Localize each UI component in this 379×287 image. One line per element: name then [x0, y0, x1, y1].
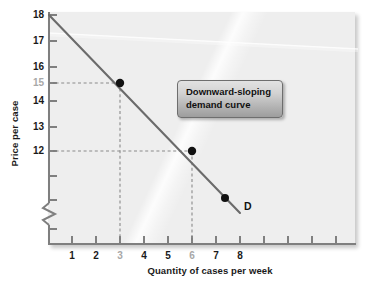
- x-tick-label-8: 8: [232, 251, 248, 261]
- demand-curve-callout: Downward-sloping demand curve: [177, 80, 283, 118]
- x-tick-label-1: 1: [64, 251, 80, 261]
- callout-line-2: demand curve: [186, 99, 275, 112]
- y-axis-break-zigzag: [43, 203, 55, 225]
- x-tick-label-3: 3: [112, 251, 128, 261]
- y-axis-ticks: [49, 15, 57, 229]
- data-point-6-12: [188, 147, 196, 155]
- y-tick-label-13: 13: [22, 122, 44, 132]
- y-tick-label-14: 14: [22, 96, 44, 106]
- demand-curve-figure: 18 17 16 15 14 13 12 1 2 3 4 5 6 7 8 Pri…: [0, 0, 379, 287]
- callout-line-1: Downward-sloping: [186, 86, 275, 99]
- chart-vector-layer: [0, 0, 379, 287]
- data-point-3-15: [116, 79, 124, 87]
- y-tick-label-15: 15: [22, 78, 44, 88]
- x-tick-label-7: 7: [208, 251, 224, 261]
- x-axis-title: Quantity of cases per week: [110, 265, 310, 276]
- x-axis-ticks: [72, 236, 336, 244]
- x-tick-label-2: 2: [88, 251, 104, 261]
- y-tick-label-16: 16: [22, 62, 44, 72]
- y-tick-label-12: 12: [22, 146, 44, 156]
- x-tick-label-6: 6: [184, 251, 200, 261]
- x-tick-label-4: 4: [136, 251, 152, 261]
- y-axis-title: Price per case: [9, 94, 20, 174]
- demand-curve-label: D: [244, 200, 252, 212]
- y-tick-label-17: 17: [22, 36, 44, 46]
- data-point-8-10: [221, 194, 229, 202]
- guide-lines: [50, 83, 192, 242]
- y-tick-label-18: 18: [22, 10, 44, 20]
- x-tick-label-5: 5: [160, 251, 176, 261]
